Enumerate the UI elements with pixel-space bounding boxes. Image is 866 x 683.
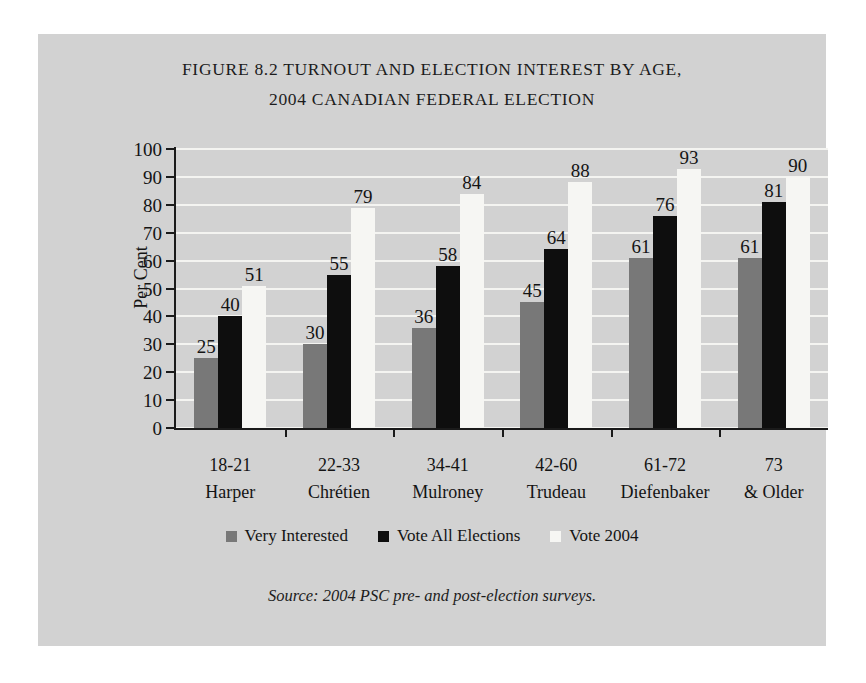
bar: 45 xyxy=(520,302,544,428)
bar-value-label: 51 xyxy=(245,265,264,284)
legend-swatch-icon xyxy=(226,531,237,542)
y-axis-tickmark xyxy=(166,399,174,401)
y-axis-tickmark xyxy=(166,260,174,262)
bar: 58 xyxy=(436,266,460,428)
category-label-line: Harper xyxy=(176,479,285,506)
gridline xyxy=(176,399,828,401)
bar-group: 618190 xyxy=(738,149,810,428)
bar: 51 xyxy=(242,286,266,428)
y-axis-tick-label: 40 xyxy=(118,307,162,326)
bar-group: 254051 xyxy=(194,149,266,428)
x-axis-tickmark xyxy=(502,430,504,437)
legend-item: Very Interested xyxy=(226,526,348,546)
x-axis-category-label: 18-21Harper xyxy=(176,452,285,506)
legend-item: Vote 2004 xyxy=(550,526,638,546)
bar: 61 xyxy=(738,258,762,428)
bar: 25 xyxy=(194,358,218,428)
bar-value-label: 58 xyxy=(438,245,457,264)
bar-group: 456488 xyxy=(520,149,592,428)
x-axis-category-label: 22-33Chrétien xyxy=(285,452,394,506)
category-label-line: 42-60 xyxy=(502,452,611,479)
bar-value-label: 88 xyxy=(571,161,590,180)
legend-swatch-icon xyxy=(550,531,561,542)
y-axis-tick-label: 20 xyxy=(118,363,162,382)
y-axis-tickmark xyxy=(166,176,174,178)
category-label-line: Diefenbaker xyxy=(611,479,720,506)
legend-label: Very Interested xyxy=(245,526,348,546)
category-label-line: 18-21 xyxy=(176,452,285,479)
y-axis-tick-labels: 0102030405060708090100 xyxy=(118,149,162,428)
y-axis-tick-label: 10 xyxy=(118,391,162,410)
category-label-line: Mulroney xyxy=(393,479,502,506)
gridline xyxy=(176,315,828,317)
x-axis-category-labels: 18-21Harper22-33Chrétien34-41Mulroney42-… xyxy=(176,452,828,510)
y-axis-tickmark xyxy=(166,427,174,429)
y-axis-tick-label: 0 xyxy=(118,419,162,438)
gridline xyxy=(176,288,828,290)
category-label-line: 22-33 xyxy=(285,452,394,479)
category-label-line: 73 xyxy=(719,452,828,479)
legend-label: Vote All Elections xyxy=(397,526,520,546)
bar: 40 xyxy=(218,316,242,428)
bar: 90 xyxy=(786,177,810,428)
bar-value-label: 40 xyxy=(221,295,240,314)
y-axis-tick-label: 100 xyxy=(118,140,162,159)
bar: 61 xyxy=(629,258,653,428)
legend-swatch-icon xyxy=(378,531,389,542)
x-axis-tickmark xyxy=(285,430,287,437)
bar: 88 xyxy=(568,182,592,428)
bar-group: 365884 xyxy=(412,149,484,428)
bar-group: 617693 xyxy=(629,149,701,428)
y-axis-tick-label: 70 xyxy=(118,223,162,242)
bar-value-label: 81 xyxy=(764,181,783,200)
category-label-line: 61-72 xyxy=(611,452,720,479)
y-axis-tick-label: 90 xyxy=(118,167,162,186)
plot-area: 254051305579365884456488617693618190 xyxy=(176,149,828,428)
bar: 76 xyxy=(653,216,677,428)
bar-value-label: 64 xyxy=(547,228,566,247)
bar-value-label: 93 xyxy=(680,148,699,167)
bar-value-label: 84 xyxy=(462,173,481,192)
gridline xyxy=(176,371,828,373)
gridline xyxy=(176,232,828,234)
category-label-line: & Older xyxy=(719,479,828,506)
bar-value-label: 36 xyxy=(414,307,433,326)
gridline xyxy=(176,204,828,206)
source-note: Source: 2004 PSC pre- and post-election … xyxy=(38,586,826,606)
bar-value-label: 45 xyxy=(523,281,542,300)
bar: 36 xyxy=(412,328,436,428)
y-axis-tickmark xyxy=(166,288,174,290)
bar: 55 xyxy=(327,275,351,428)
y-axis-tick-label: 60 xyxy=(118,251,162,270)
y-axis-tickmark xyxy=(166,232,174,234)
figure-title: FIGURE 8.2 TURNOUT AND ELECTION INTEREST… xyxy=(38,54,826,114)
category-label-line: Trudeau xyxy=(502,479,611,506)
y-axis-tickmark xyxy=(166,148,174,150)
figure-panel: FIGURE 8.2 TURNOUT AND ELECTION INTEREST… xyxy=(38,34,826,646)
x-axis-category-label: 42-60Trudeau xyxy=(502,452,611,506)
gridline xyxy=(176,260,828,262)
y-axis-tickmark xyxy=(166,343,174,345)
figure-title-line-2: 2004 CANADIAN FEDERAL ELECTION xyxy=(38,84,826,114)
x-axis-category-label: 61-72Diefenbaker xyxy=(611,452,720,506)
gridline xyxy=(176,176,828,178)
bar: 81 xyxy=(762,202,786,428)
x-axis-category-label: 34-41Mulroney xyxy=(393,452,502,506)
y-axis-tickmark xyxy=(166,371,174,373)
x-axis-category-label: 73& Older xyxy=(719,452,828,506)
figure-title-line-1: FIGURE 8.2 TURNOUT AND ELECTION INTEREST… xyxy=(38,54,826,84)
gridline xyxy=(176,148,828,150)
legend-item: Vote All Elections xyxy=(378,526,520,546)
category-label-line: Chrétien xyxy=(285,479,394,506)
x-axis-line xyxy=(174,428,828,430)
y-axis-tickmark xyxy=(166,204,174,206)
bar-value-label: 55 xyxy=(330,254,349,273)
bar-value-label: 90 xyxy=(788,156,807,175)
bar-value-label: 61 xyxy=(632,237,651,256)
y-axis-line xyxy=(174,147,176,430)
bar: 93 xyxy=(677,169,701,428)
bar-value-label: 76 xyxy=(656,195,675,214)
bar-value-label: 25 xyxy=(197,337,216,356)
bar: 64 xyxy=(544,249,568,428)
plot-frame: Per Cent 0102030405060708090100 25405130… xyxy=(118,149,828,444)
